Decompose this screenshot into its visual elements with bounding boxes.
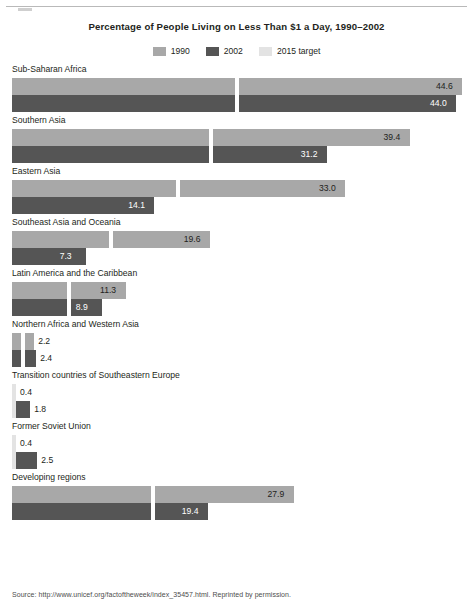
category-label: Southeast Asia and Oceania: [0, 217, 473, 228]
category-label: Sub-Saharan Africa: [0, 64, 473, 75]
chart-legend: 199020022015 target: [0, 47, 473, 56]
target-marker-2015: [209, 129, 213, 163]
bar-pair: 27.919.4: [0, 486, 473, 520]
bar-pair: 33.014.1: [0, 180, 473, 214]
bar-value-label: 2.2: [38, 333, 50, 350]
bar-group: Latin America and the Caribbean11.38.9: [0, 268, 473, 316]
bar-group: Northern Africa and Western Asia2.22.4: [0, 319, 473, 367]
bar-value-label: 19.6: [184, 231, 201, 248]
bar-group: Developing regions27.919.4: [0, 472, 473, 520]
bar-pair: 44.644.0: [0, 78, 473, 112]
bar-row-1990: 0.4: [12, 384, 473, 401]
legend-item-1990: 1990: [153, 47, 190, 56]
bar-value-label: 2.5: [41, 452, 53, 469]
category-label: Eastern Asia: [0, 166, 473, 177]
category-label: Former Soviet Union: [0, 421, 473, 432]
bar-pair: 2.22.4: [0, 333, 473, 367]
bar-value-label: 27.9: [268, 486, 285, 503]
target-marker-2015: [176, 180, 180, 214]
bar-row-1990: 19.6: [12, 231, 473, 248]
bar-row-2002: 44.0: [12, 95, 473, 112]
legend-item-2002: 2002: [206, 47, 243, 56]
legend-label: 2015 target: [277, 47, 320, 56]
bar-2002: [12, 503, 208, 520]
category-label: Southern Asia: [0, 115, 473, 126]
bar-row-2002: 14.1: [12, 197, 473, 214]
bar-group: Transition countries of Southeastern Eur…: [0, 370, 473, 418]
bar-row-2002: 31.2: [12, 146, 473, 163]
legend-label: 2002: [224, 47, 243, 56]
bar-row-2002: 7.3: [12, 248, 473, 265]
category-label: Northern Africa and Western Asia: [0, 319, 473, 330]
source-note: Source: http://www.unicef.org/factofthew…: [12, 591, 291, 598]
bar-2002: [12, 146, 327, 163]
bar-group: Eastern Asia33.014.1: [0, 166, 473, 214]
bar-value-label: 33.0: [319, 180, 336, 197]
target-marker-2015: [12, 435, 16, 469]
bar-row-2002: 8.9: [12, 299, 473, 316]
legend-swatch-icon: [259, 47, 272, 56]
bar-2002: [12, 299, 102, 316]
bar-value-label: 19.4: [182, 503, 199, 520]
bar-value-label: 8.9: [76, 299, 88, 316]
bar-value-label: 2.4: [40, 350, 52, 367]
target-marker-2015: [21, 333, 25, 367]
bar-row-1990: 33.0: [12, 180, 473, 197]
bar-pair: 39.431.2: [0, 129, 473, 163]
chart-page: Percentage of People Living on Less Than…: [0, 0, 473, 604]
category-label: Transition countries of Southeastern Eur…: [0, 370, 473, 381]
top-divider: [6, 6, 467, 7]
bar-value-label: 1.8: [34, 401, 46, 418]
bar-2002: [12, 95, 456, 112]
target-marker-2015: [235, 78, 239, 112]
bar-row-1990: 0.4: [12, 435, 473, 452]
bar-value-label: 44.0: [430, 95, 447, 112]
bar-2002: [12, 248, 86, 265]
target-marker-2015: [109, 231, 113, 265]
legend-swatch-icon: [153, 47, 166, 56]
bar-row-2002: 1.8: [12, 401, 473, 418]
bar-value-label: 44.6: [436, 78, 453, 95]
bar-row-1990: 2.2: [12, 333, 473, 350]
bar-row-2002: 2.5: [12, 452, 473, 469]
target-marker-2015: [12, 384, 16, 418]
bar-group: Southern Asia39.431.2: [0, 115, 473, 163]
page-title: Percentage of People Living on Less Than…: [0, 21, 473, 32]
bar-row-1990: 39.4: [12, 129, 473, 146]
bar-value-label: 0.4: [20, 435, 32, 452]
category-label: Developing regions: [0, 472, 473, 483]
bar-row-1990: 11.3: [12, 282, 473, 299]
bar-row-2002: 2.4: [12, 350, 473, 367]
bar-row-1990: 44.6: [12, 78, 473, 95]
top-divider-tick: [18, 8, 32, 11]
bar-row-2002: 19.4: [12, 503, 473, 520]
bar-value-label: 0.4: [20, 384, 32, 401]
bar-group: Southeast Asia and Oceania19.67.3: [0, 217, 473, 265]
bar-value-label: 31.2: [301, 146, 318, 163]
bar-value-label: 11.3: [100, 282, 116, 299]
legend-swatch-icon: [206, 47, 219, 56]
bar-pair: 0.41.8: [0, 384, 473, 418]
legend-item-2015-target: 2015 target: [259, 47, 320, 56]
target-marker-2015: [67, 282, 71, 316]
target-marker-2015: [151, 486, 155, 520]
legend-label: 1990: [171, 47, 190, 56]
bar-pair: 11.38.9: [0, 282, 473, 316]
bar-row-1990: 27.9: [12, 486, 473, 503]
bar-pair: 0.42.5: [0, 435, 473, 469]
bar-value-label: 7.3: [60, 248, 72, 265]
bar-group: Former Soviet Union0.42.5: [0, 421, 473, 469]
bar-group: Sub-Saharan Africa44.644.0: [0, 64, 473, 112]
category-label: Latin America and the Caribbean: [0, 268, 473, 279]
bar-value-label: 39.4: [384, 129, 401, 146]
bar-value-label: 14.1: [128, 197, 145, 214]
bar-pair: 19.67.3: [0, 231, 473, 265]
chart-plot-area: Sub-Saharan Africa44.644.0Southern Asia3…: [0, 64, 473, 523]
